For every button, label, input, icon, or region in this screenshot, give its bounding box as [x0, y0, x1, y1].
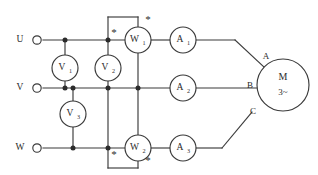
junction-dot-v-wattmeter-coils	[136, 86, 141, 91]
polarity-star-w2-current-icon: *	[111, 148, 117, 160]
ammeter-a2-subscript: 2	[187, 87, 190, 94]
terminal-u-circle[interactable]	[33, 36, 41, 44]
voltmeter-v1-subscript: 1	[69, 67, 72, 74]
motor-symbol[interactable]: M 3~	[257, 59, 309, 111]
ammeter-a1-subscript: 1	[187, 39, 190, 46]
voltmeter-v3[interactable]: V 3	[60, 101, 86, 127]
ammeter-a3-label: A	[177, 142, 184, 152]
ammeter-a1-label: A	[177, 34, 184, 44]
junction-dot-w-v3	[71, 146, 76, 151]
ammeter-a2-label: A	[177, 82, 184, 92]
motor-label: M	[279, 71, 288, 82]
junction-dot-v-v3	[71, 86, 76, 91]
terminal-u[interactable]: U	[17, 34, 42, 44]
terminal-v-circle[interactable]	[33, 84, 41, 92]
terminal-v-label: V	[17, 82, 24, 92]
motor-terminal-c-label: C	[250, 106, 256, 116]
wattmeter-w2-label: W	[130, 142, 139, 152]
junction-dot-u-v1	[63, 38, 68, 43]
voltmeter-v2[interactable]: V 2	[95, 55, 121, 81]
voltmeter-v1[interactable]: V 1	[52, 55, 78, 81]
voltmeter-v2-label: V	[102, 62, 109, 72]
junction-dot-v-v1	[63, 86, 68, 91]
motor-sublabel: 3~	[278, 87, 288, 97]
circuit-canvas: U V W V 1 V 2	[0, 0, 318, 175]
terminal-w-label: W	[16, 142, 25, 152]
voltmeter-v1-label: V	[59, 62, 66, 72]
junction-dot-u-v2-w1	[106, 38, 111, 43]
polarity-star-w1-voltage-icon: *	[145, 13, 151, 25]
motor-terminal-a-label: A	[263, 51, 270, 61]
terminal-w-circle[interactable]	[33, 144, 41, 152]
ammeter-a3[interactable]: A 3	[170, 135, 196, 161]
motor-terminal-b-label: B	[247, 80, 253, 90]
motor-body[interactable]	[257, 59, 309, 111]
ammeter-a1[interactable]: A 1	[170, 27, 196, 53]
wattmeter-w1[interactable]: W 1	[125, 27, 151, 53]
wattmeter-w1-label: W	[130, 34, 139, 44]
voltmeter-v3-subscript: 3	[77, 113, 80, 120]
wire-u-to-motor-a	[235, 40, 265, 68]
junction-dot-v-v2	[106, 86, 111, 91]
ammeter-a3-subscript: 3	[187, 147, 190, 154]
terminal-u-label: U	[17, 34, 24, 44]
voltmeter-v3-label: V	[67, 108, 74, 118]
wire-w-to-motor-c	[222, 112, 252, 148]
polarity-star-w1-current-icon: *	[111, 26, 117, 38]
circuit-diagram: U V W V 1 V 2	[0, 0, 318, 175]
polarity-star-w2-voltage-icon: *	[145, 154, 151, 166]
voltmeter-v2-subscript: 2	[112, 67, 115, 74]
terminal-w[interactable]: W	[16, 142, 42, 152]
terminal-v[interactable]: V	[17, 82, 42, 92]
junction-dot-w-w2	[106, 146, 111, 151]
ammeter-a2[interactable]: A 2	[170, 75, 196, 101]
wattmeter-w1-subscript: 1	[142, 39, 145, 46]
